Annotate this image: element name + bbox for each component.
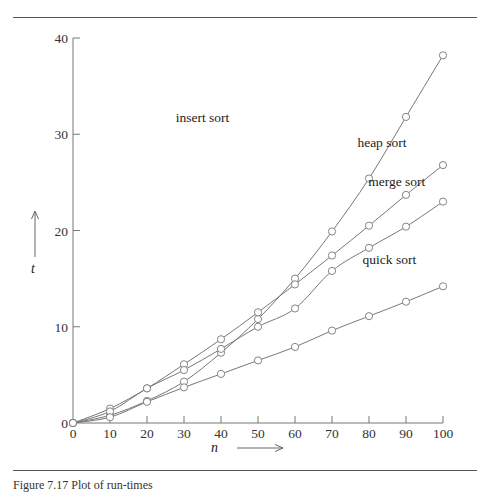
y-tick-label: 40 bbox=[55, 31, 69, 46]
series-labels: insert sortheap sortmerge sortquick sort bbox=[176, 110, 426, 267]
data-point-circle-icon bbox=[439, 52, 446, 59]
series-quick-sort bbox=[69, 283, 446, 427]
data-point-circle-icon bbox=[291, 343, 298, 350]
y-axis-label: t bbox=[31, 211, 39, 276]
data-point-circle-icon bbox=[217, 370, 224, 377]
series-line-insert-sort bbox=[73, 55, 443, 423]
x-tick-label: 80 bbox=[362, 426, 376, 441]
series-label-quick-sort: quick sort bbox=[363, 252, 417, 267]
data-point-circle-icon bbox=[291, 281, 298, 288]
x-tick-label: 60 bbox=[288, 426, 302, 441]
data-point-circle-icon bbox=[143, 385, 150, 392]
data-point-circle-icon bbox=[402, 298, 409, 305]
series-label-insert-sort: insert sort bbox=[176, 110, 230, 125]
data-point-circle-icon bbox=[69, 419, 76, 426]
data-point-circle-icon bbox=[365, 222, 372, 229]
x-tick-label: 40 bbox=[214, 426, 228, 441]
series-line-heap-sort bbox=[73, 165, 443, 423]
x-tick-label: 20 bbox=[140, 426, 154, 441]
y-tick-label: 0 bbox=[61, 416, 68, 431]
data-point-circle-icon bbox=[143, 398, 150, 405]
data-point-circle-icon bbox=[254, 357, 261, 364]
data-point-circle-icon bbox=[365, 313, 372, 320]
x-tick-label: 0 bbox=[70, 426, 77, 441]
data-point-circle-icon bbox=[402, 223, 409, 230]
data-point-circle-icon bbox=[439, 161, 446, 168]
x-tick-label: 30 bbox=[177, 426, 191, 441]
x-tick-label: 10 bbox=[103, 426, 117, 441]
x-axis-label: n bbox=[211, 440, 283, 455]
data-point-circle-icon bbox=[439, 283, 446, 290]
data-point-circle-icon bbox=[402, 113, 409, 120]
y-tick-label: 20 bbox=[55, 224, 69, 239]
data-point-circle-icon bbox=[217, 336, 224, 343]
y-tick-label: 30 bbox=[55, 127, 69, 142]
data-point-circle-icon bbox=[180, 366, 187, 373]
x-tick-label: 90 bbox=[399, 426, 413, 441]
data-point-circle-icon bbox=[402, 191, 409, 198]
series-insert-sort bbox=[69, 52, 446, 427]
data-point-circle-icon bbox=[328, 228, 335, 235]
data-point-circle-icon bbox=[254, 315, 261, 322]
data-point-circle-icon bbox=[328, 252, 335, 259]
x-tick-label: 70 bbox=[325, 426, 339, 441]
data-point-circle-icon bbox=[291, 305, 298, 312]
x-tick-label: 50 bbox=[251, 426, 265, 441]
data-point-circle-icon bbox=[328, 267, 335, 274]
bottom-rule bbox=[13, 470, 477, 471]
series-line-quick-sort bbox=[73, 286, 443, 423]
data-point-circle-icon bbox=[254, 323, 261, 330]
data-point-circle-icon bbox=[365, 244, 372, 251]
data-point-circle-icon bbox=[106, 414, 113, 421]
figure-caption: Figure 7.17 Plot of run-times bbox=[13, 478, 153, 493]
data-point-circle-icon bbox=[439, 198, 446, 205]
data-point-circle-icon bbox=[180, 384, 187, 391]
series-label-heap-sort: heap sort bbox=[357, 135, 406, 150]
x-axis-variable: n bbox=[211, 440, 218, 455]
series-label-merge-sort: merge sort bbox=[368, 174, 425, 189]
series-heap-sort bbox=[69, 161, 446, 426]
x-tick-label: 100 bbox=[433, 426, 454, 441]
y-tick-label: 10 bbox=[55, 320, 69, 335]
data-point-circle-icon bbox=[217, 345, 224, 352]
axes: 0102030405060708090100010203040 bbox=[55, 31, 454, 441]
series-group bbox=[69, 52, 446, 427]
y-axis-variable: t bbox=[31, 261, 36, 276]
data-point-circle-icon bbox=[254, 309, 261, 316]
data-point-circle-icon bbox=[328, 327, 335, 334]
